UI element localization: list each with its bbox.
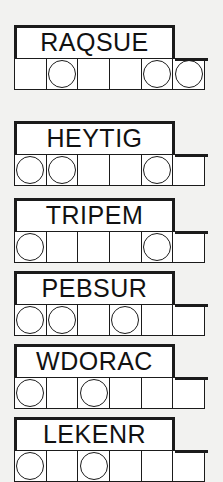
circle-marker-icon (48, 306, 76, 334)
circle-marker-icon (80, 452, 108, 480)
answer-cell[interactable] (15, 155, 47, 185)
answer-cell[interactable] (110, 305, 142, 335)
puzzle-unit: PEBSUR (14, 271, 205, 336)
clue-word-plate: LEKENR (14, 417, 175, 450)
circle-marker-icon (16, 156, 44, 184)
circle-marker-icon (16, 233, 44, 261)
answer-cell[interactable] (47, 451, 79, 481)
answer-cell[interactable] (110, 451, 142, 481)
puzzle-unit: WDORAC (14, 344, 205, 409)
clue-word-plate: WDORAC (14, 344, 175, 377)
answer-cell[interactable] (78, 232, 110, 262)
circle-marker-icon (48, 156, 76, 184)
answer-cell[interactable] (142, 378, 174, 408)
answer-cell[interactable] (15, 232, 47, 262)
answer-cell[interactable] (142, 305, 174, 335)
answer-grid (14, 450, 205, 482)
clue-word-text: PEBSUR (17, 276, 172, 301)
answer-cell[interactable] (15, 451, 47, 481)
answer-cell[interactable] (47, 59, 79, 89)
plate-ledge (175, 58, 208, 61)
answer-cell[interactable] (78, 155, 110, 185)
clue-word-plate: HEYTIG (14, 121, 175, 154)
puzzle-unit: LEKENR (14, 417, 205, 482)
clue-word-text: TRIPEM (17, 203, 172, 228)
answer-cell[interactable] (142, 451, 174, 481)
puzzle-unit: HEYTIG (14, 121, 205, 186)
answer-cell[interactable] (173, 232, 204, 262)
plate-ledge (175, 450, 208, 453)
clue-word-plate: TRIPEM (14, 198, 175, 231)
clue-word-plate: PEBSUR (14, 271, 175, 304)
answer-cell[interactable] (173, 451, 204, 481)
answer-cell[interactable] (78, 451, 110, 481)
clue-word-text: HEYTIG (17, 126, 172, 151)
circle-marker-icon (143, 233, 171, 261)
clue-word-plate: RAQSUE (14, 25, 175, 58)
circle-marker-icon (80, 379, 108, 407)
circle-marker-icon (16, 306, 44, 334)
answer-grid (14, 58, 205, 90)
answer-grid (14, 154, 205, 186)
answer-cell[interactable] (110, 59, 142, 89)
answer-cell[interactable] (142, 232, 174, 262)
answer-cell[interactable] (47, 232, 79, 262)
answer-cell[interactable] (173, 59, 204, 89)
answer-cell[interactable] (110, 232, 142, 262)
circle-marker-icon (16, 452, 44, 480)
answer-grid (14, 377, 205, 409)
circle-marker-icon (16, 379, 44, 407)
answer-cell[interactable] (78, 305, 110, 335)
answer-cell[interactable] (15, 305, 47, 335)
clue-word-text: LEKENR (17, 422, 172, 447)
answer-cell[interactable] (78, 378, 110, 408)
circle-marker-icon (48, 60, 76, 88)
answer-cell[interactable] (78, 59, 110, 89)
puzzle-unit: TRIPEM (14, 198, 205, 263)
circle-marker-icon (143, 156, 171, 184)
answer-cell[interactable] (47, 378, 79, 408)
answer-cell[interactable] (110, 378, 142, 408)
plate-ledge (175, 377, 208, 380)
answer-cell[interactable] (47, 305, 79, 335)
plate-ledge (175, 304, 208, 307)
answer-cell[interactable] (142, 59, 174, 89)
answer-cell[interactable] (47, 155, 79, 185)
answer-cell[interactable] (142, 155, 174, 185)
plate-ledge (175, 231, 208, 234)
answer-cell[interactable] (110, 155, 142, 185)
plate-ledge (175, 154, 208, 157)
clue-word-text: WDORAC (17, 349, 172, 374)
circle-marker-icon (143, 60, 171, 88)
answer-cell[interactable] (15, 378, 47, 408)
answer-cell[interactable] (173, 378, 204, 408)
circle-marker-icon (111, 306, 139, 334)
puzzle-unit: RAQSUE (14, 25, 205, 90)
answer-grid (14, 304, 205, 336)
answer-cell[interactable] (173, 155, 204, 185)
answer-cell[interactable] (173, 305, 204, 335)
circle-marker-icon (175, 60, 203, 88)
answer-grid (14, 231, 205, 263)
clue-word-text: RAQSUE (17, 30, 172, 55)
answer-cell[interactable] (15, 59, 47, 89)
